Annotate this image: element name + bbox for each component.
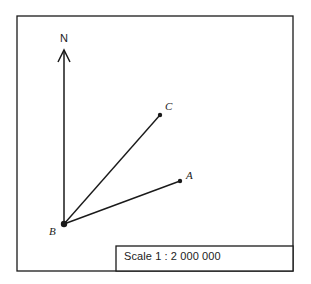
- point-c: [158, 113, 162, 117]
- point-b: [61, 221, 67, 227]
- scale-label: Scale 1 : 2 000 000: [124, 250, 221, 262]
- bearing-diagram: [0, 0, 311, 284]
- line-b-c: [64, 115, 160, 224]
- point-c-label: C: [165, 100, 172, 112]
- point-a-label: A: [186, 169, 193, 181]
- north-label: N: [60, 32, 68, 44]
- line-b-a: [64, 181, 180, 224]
- point-a: [178, 179, 182, 183]
- point-b-label: B: [49, 225, 56, 237]
- map-frame: [17, 16, 293, 271]
